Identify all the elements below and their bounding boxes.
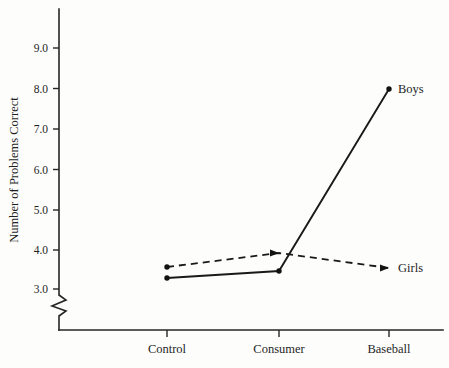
- series-markers-girls: [164, 250, 389, 272]
- marker-boys-control: [164, 275, 169, 280]
- series-line-boys: [167, 89, 389, 278]
- y-tick-labels: 9.0 8.0 7.0 6.0 5.0 4.0 3.0: [34, 42, 49, 295]
- series-label-girls: Girls: [398, 261, 423, 275]
- y-tick-label-8: 8.0: [34, 83, 49, 95]
- x-label-control: Control: [148, 342, 187, 356]
- chart-canvas: 9.0 8.0 7.0 6.0 5.0 4.0 3.0 Control Cons…: [0, 0, 449, 368]
- marker-girls-baseball-arrow-icon: [380, 265, 389, 272]
- series-line-girls: [167, 253, 389, 268]
- y-axis-break-icon: [52, 295, 66, 316]
- x-tick-marks: [167, 330, 389, 337]
- line-chart: 9.0 8.0 7.0 6.0 5.0 4.0 3.0 Control Cons…: [0, 0, 449, 368]
- y-tick-label-9: 9.0: [34, 42, 49, 54]
- x-label-consumer: Consumer: [253, 342, 305, 356]
- y-tick-label-7: 7.0: [34, 123, 49, 135]
- series-label-boys: Boys: [398, 82, 424, 96]
- y-tick-label-3: 3.0: [34, 283, 49, 295]
- y-tick-label-6: 6.0: [34, 164, 49, 176]
- series-markers-boys: [164, 86, 391, 280]
- marker-boys-consumer: [276, 268, 281, 273]
- marker-girls-control: [164, 264, 169, 269]
- marker-boys-baseball: [386, 86, 391, 91]
- y-axis-title: Number of Problems Correct: [7, 97, 21, 243]
- y-tick-label-4: 4.0: [34, 244, 49, 256]
- x-label-baseball: Baseball: [367, 342, 411, 356]
- y-tick-label-5: 5.0: [34, 204, 49, 216]
- x-axis-labels: Control Consumer Baseball: [148, 342, 411, 356]
- y-tick-marks: [53, 48, 59, 289]
- marker-girls-consumer-arrow-icon: [270, 250, 279, 257]
